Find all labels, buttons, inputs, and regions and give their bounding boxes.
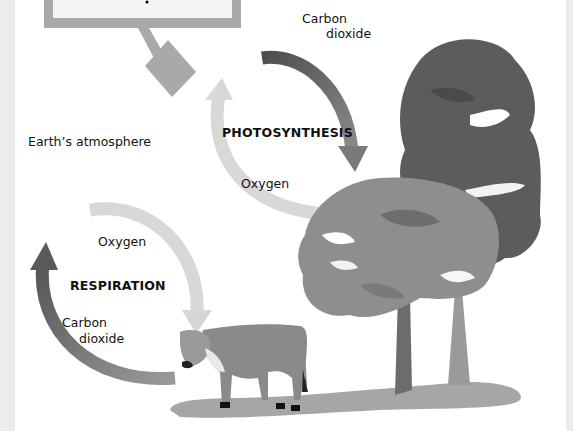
arrowhead-icon	[338, 146, 368, 172]
photosynthesis-co2-label-line1: Carbon	[302, 12, 347, 26]
arrowhead-icon	[30, 242, 58, 270]
diagram-canvas	[0, 0, 573, 431]
o2-arrow-photosynthesis	[217, 95, 345, 214]
respiration-co2-label-line2: dioxide	[79, 332, 124, 346]
respiration-title: RESPIRATION	[70, 279, 166, 293]
atmosphere-label: Earth’s atmosphere	[28, 135, 151, 149]
arrowhead-icon	[205, 78, 233, 100]
respiration-o2-label: Oxygen	[98, 235, 146, 249]
photosynthesis-co2-label-line2: dioxide	[326, 27, 371, 41]
callout-box	[44, 0, 241, 97]
tree-front	[298, 177, 499, 395]
photosynthesis-o2-label: Oxygen	[241, 177, 289, 191]
photosynthesis-title: PHOTOSYNTHESIS	[222, 126, 353, 140]
respiration-co2-label-line1: Carbon	[62, 316, 107, 330]
o2-arrow-respiration	[90, 209, 197, 312]
